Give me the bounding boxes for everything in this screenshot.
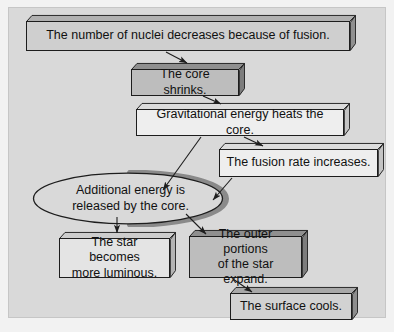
arrow-core-to-gravity (203, 96, 221, 104)
flowchart-figure: The number of nuclei decreases because o… (0, 0, 394, 332)
arrow-energy-to-outer (186, 214, 206, 234)
arrow-layer (0, 0, 394, 332)
arrow-nuclei-to-core (166, 52, 187, 63)
arrow-outer-to-surface (233, 279, 252, 292)
arrow-gravity-to-energy (163, 137, 201, 190)
arrow-gravity-to-fusion (244, 137, 263, 146)
arrow-fusion-to-energy (213, 178, 232, 200)
